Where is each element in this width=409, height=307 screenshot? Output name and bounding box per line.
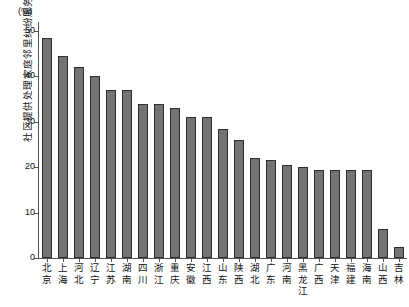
x-axis-label: 福建 [344,262,358,285]
bar [42,38,52,258]
bar [202,117,212,258]
y-axis-tick-label: 0 [30,252,35,262]
bar-chart: (%) 社区提供处理家庭邻里纠纷服务 01020304050 北京上海河北辽宁江… [0,0,409,307]
x-axis-label: 安徽 [184,262,198,285]
x-axis-label: 北京 [40,262,54,285]
bar [378,229,388,259]
x-axis-label: 重庆 [168,262,182,285]
bar [346,170,356,259]
bar [282,165,292,258]
bar [170,108,180,258]
bar [298,167,308,258]
bar [58,56,68,258]
bar [138,104,148,258]
bar [250,158,260,258]
bar [394,247,404,258]
plot-area: 01020304050 [38,22,407,258]
x-axis-label: 陕西 [232,262,246,285]
x-axis-label: 河南 [280,262,294,285]
bar [218,129,228,258]
x-axis-label: 江西 [200,262,214,285]
y-axis-tick-label: 10 [25,207,35,217]
x-axis-label: 辽宁 [88,262,102,285]
x-axis-label: 天津 [328,262,342,285]
x-axis-label: 山东 [216,262,230,285]
y-axis-tick-label: 20 [25,161,35,171]
y-axis-tick: 0 [38,258,39,259]
bar [74,67,84,258]
bar [154,104,164,258]
bar [266,160,276,258]
x-axis-label: 吉林 [392,262,406,285]
x-axis-label: 湖北 [248,262,262,285]
bar [122,90,132,258]
bar-series [39,22,407,258]
x-axis-label: 江苏 [104,262,118,285]
bar [362,170,372,259]
x-axis-label: 河北 [72,262,86,285]
x-axis-labels: 北京上海河北辽宁江苏湖南四川浙江重庆安徽江西山东陕西湖北广东河南黑龙江广西天津福… [38,262,407,307]
y-axis-tick-label: 30 [25,116,35,126]
y-axis-tick-label: 50 [25,25,35,35]
x-axis-label: 广西 [312,262,326,285]
x-axis-label: 广东 [264,262,278,285]
x-axis-label: 四川 [136,262,150,285]
bar [234,140,244,258]
y-axis-tick-label: 40 [25,70,35,80]
bar [330,170,340,259]
x-axis-label: 海南 [360,262,374,285]
x-axis-label: 黑龙江 [296,262,310,297]
x-axis-label: 上海 [56,262,70,285]
bar [186,117,196,258]
bar [90,76,100,258]
bar [314,170,324,259]
x-axis-label: 湖南 [120,262,134,285]
x-axis-label: 浙江 [152,262,166,285]
bar [106,90,116,258]
x-axis-label: 山西 [376,262,390,285]
